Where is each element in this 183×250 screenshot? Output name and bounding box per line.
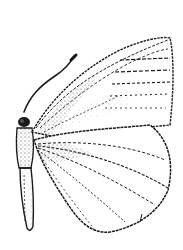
butterfly-drawing — [0, 0, 183, 250]
forewing — [32, 38, 173, 138]
thorax — [16, 128, 33, 168]
butterfly-illustration: butterfly line illustration (side view, … — [0, 0, 183, 250]
body — [16, 117, 33, 230]
hindwing — [34, 125, 171, 232]
head — [18, 117, 30, 127]
abdomen — [20, 168, 33, 230]
